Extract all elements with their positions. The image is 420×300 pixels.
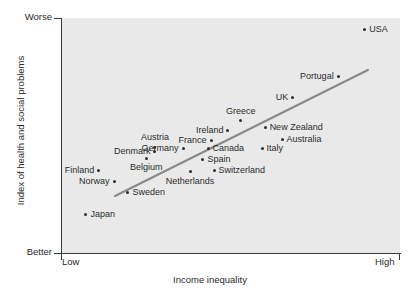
data-point <box>84 213 87 216</box>
data-point <box>281 138 284 141</box>
data-point-label: Canada <box>213 143 245 153</box>
data-point <box>97 169 100 172</box>
data-point-label: Spain <box>207 154 230 164</box>
data-point-label: Austria <box>141 132 169 142</box>
scatter-chart: Worse Better Low High Income inequality … <box>0 0 420 300</box>
data-point <box>210 139 213 142</box>
data-point-label: Italy <box>267 143 284 153</box>
data-point-label: Belgium <box>130 162 163 172</box>
data-point-label: Switzerland <box>219 165 266 175</box>
data-point <box>126 191 129 194</box>
data-point-label: Finland <box>65 165 95 175</box>
data-point <box>226 129 229 132</box>
data-point-label: Norway <box>79 176 110 186</box>
data-point <box>113 180 116 183</box>
data-point <box>337 75 340 78</box>
data-point <box>239 119 242 122</box>
data-point-label: Greece <box>226 106 256 116</box>
data-point <box>213 169 216 172</box>
data-point-label: Netherlands <box>166 176 215 186</box>
data-point-label: Australia <box>287 134 322 144</box>
data-point <box>207 147 210 150</box>
data-point <box>189 170 192 173</box>
data-points-layer: JapanFinlandNorwaySwedenDenmarkBelgiumAu… <box>0 0 420 300</box>
data-point-label: Ireland <box>196 125 224 135</box>
data-point-label: Germany <box>141 143 178 153</box>
data-point <box>291 96 294 99</box>
data-point <box>201 158 204 161</box>
data-point-label: France <box>179 135 207 145</box>
data-point <box>363 28 366 31</box>
data-point-label: Portugal <box>300 71 334 81</box>
data-point-label: UK <box>276 92 289 102</box>
data-point <box>182 147 185 150</box>
data-point-label: New Zealand <box>270 122 323 132</box>
data-point-label: Japan <box>90 209 115 219</box>
data-point-label: Sweden <box>132 187 165 197</box>
data-point <box>264 126 267 129</box>
data-point-label: USA <box>369 24 388 34</box>
data-point <box>145 157 148 160</box>
data-point <box>261 147 264 150</box>
